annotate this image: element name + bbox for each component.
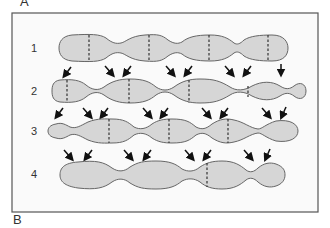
- peristalsis-segmentation-diagram: 1 2 3 4: [0, 0, 330, 228]
- panel-label-b: B: [13, 212, 22, 227]
- row-label-2: 2: [31, 85, 37, 97]
- row-label-1: 1: [31, 42, 37, 54]
- row-label-3: 3: [31, 125, 37, 137]
- row-label-4: 4: [31, 168, 37, 180]
